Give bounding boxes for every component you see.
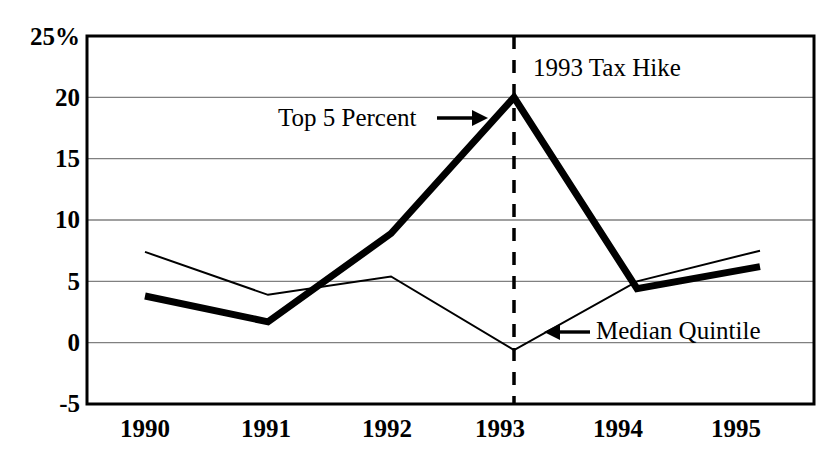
x-tick-label-1993: 1993	[450, 416, 550, 441]
x-tick-label-1992: 1992	[337, 416, 437, 441]
chart-plot-svg	[0, 0, 840, 464]
y-tick-label-10: 10	[55, 207, 80, 232]
annotation-1993-tax-hike: 1993 Tax Hike	[533, 55, 681, 80]
annotation-top-5-percent: Top 5 Percent	[278, 105, 417, 130]
y-tick-label-0: 0	[68, 330, 81, 355]
chart-container: 25% 20 15 10 5 0 -5 1990 1991 1992 1993 …	[0, 0, 840, 464]
y-tick-label-5: 5	[68, 269, 81, 294]
y-tick-label--5: -5	[59, 391, 80, 416]
x-tick-label-1995: 1995	[686, 416, 786, 441]
x-tick-label-1990: 1990	[95, 416, 195, 441]
x-tick-label-1991: 1991	[216, 416, 316, 441]
y-tick-label-20: 20	[55, 85, 80, 110]
y-tick-label-25: 25%	[30, 24, 80, 49]
annotation-median-quintile: Median Quintile	[596, 318, 761, 343]
y-tick-label-15: 15	[55, 146, 80, 171]
x-tick-label-1994: 1994	[568, 416, 668, 441]
